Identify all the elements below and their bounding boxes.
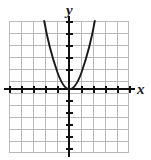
x-tick <box>81 86 83 93</box>
x-tick <box>117 86 119 93</box>
y-tick <box>66 124 73 126</box>
graph-figure: y x <box>0 0 151 160</box>
x-tick <box>93 86 95 93</box>
x-axis-label: x <box>137 82 145 97</box>
y-tick <box>66 57 73 59</box>
y-tick <box>66 112 73 114</box>
x-tick <box>105 86 107 93</box>
x-tick <box>21 86 23 93</box>
y-tick <box>66 21 73 23</box>
x-tick <box>129 86 131 93</box>
y-tick <box>66 148 73 150</box>
y-tick <box>66 33 73 35</box>
x-tick <box>33 86 35 93</box>
x-tick <box>57 86 59 93</box>
x-tick <box>45 86 47 93</box>
y-axis-label: y <box>66 3 73 18</box>
x-tick <box>9 86 11 93</box>
y-tick <box>66 45 73 47</box>
y-tick <box>66 69 73 71</box>
y-tick <box>66 136 73 138</box>
y-tick <box>66 100 73 102</box>
